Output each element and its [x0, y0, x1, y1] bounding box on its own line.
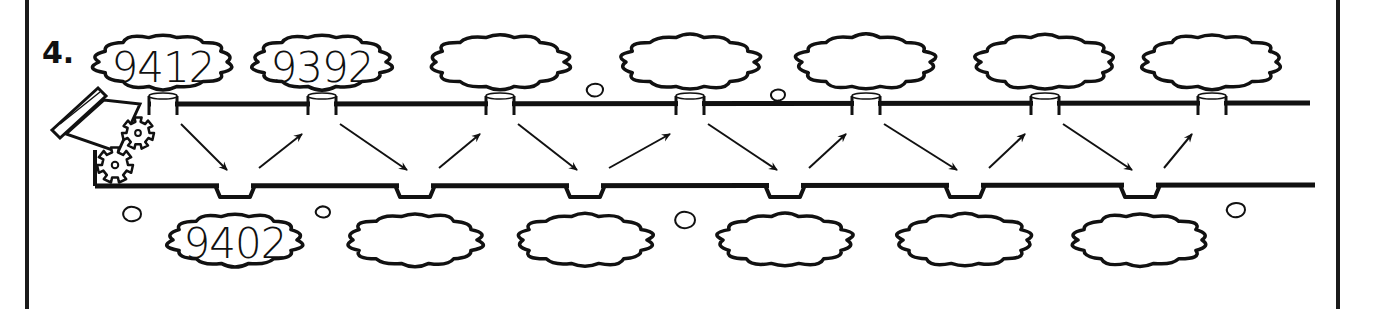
top-cloud-answer-input[interactable]	[808, 47, 928, 91]
arrow-up-right-icon	[609, 134, 670, 168]
top-cloud-answer-input[interactable]	[987, 47, 1107, 91]
pipe	[95, 103, 1315, 186]
top-cloud-answer-input[interactable]	[632, 47, 752, 91]
top-cloud	[92, 35, 231, 90]
puff-icon	[123, 207, 141, 222]
arrow-up-right-icon	[809, 134, 846, 168]
puff-icon	[675, 212, 695, 228]
puff-icon	[771, 89, 785, 100]
arrow-down-right-icon	[181, 124, 227, 170]
arrow-up-right-icon	[259, 134, 302, 168]
arrow-up-right-icon	[1164, 134, 1192, 168]
arrow-up-right-icon	[989, 134, 1025, 168]
arrow-down-right-icon	[1063, 124, 1132, 170]
puff-icon	[1227, 203, 1245, 217]
arrow-down-right-icon	[884, 124, 957, 170]
puff-icon	[587, 84, 603, 97]
arrow-up-right-icon	[439, 134, 480, 168]
bottom-cloud-answer-input[interactable]	[359, 223, 475, 267]
bottom-cloud	[167, 214, 303, 267]
cannon-icon	[52, 88, 140, 152]
puff-icon	[316, 206, 330, 217]
bottom-cloud-answer-input[interactable]	[909, 223, 1025, 267]
top-cloud-answer-input[interactable]	[1154, 47, 1274, 91]
top-cloud	[252, 35, 393, 90]
gear-icon	[122, 117, 154, 148]
arrow-down-right-icon	[340, 124, 407, 170]
bottom-cloud-answer-input[interactable]	[529, 223, 645, 267]
arrows	[181, 124, 1192, 170]
worksheet-problem-4: 4. 941293929402	[0, 0, 1373, 309]
bottom-cloud-answer-input[interactable]	[729, 223, 845, 267]
arrow-down-right-icon	[518, 124, 577, 170]
gear-icon	[97, 148, 133, 183]
top-cloud-answer-input[interactable]	[442, 47, 562, 91]
arrow-down-right-icon	[708, 124, 777, 170]
bottom-cloud-answer-input[interactable]	[1084, 223, 1200, 267]
